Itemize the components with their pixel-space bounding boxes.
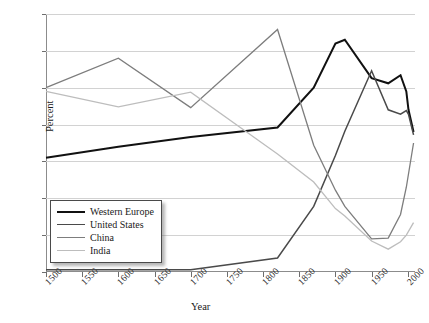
legend-item: United States <box>57 218 155 231</box>
legend-label: Western Europe <box>90 205 154 218</box>
legend-line-swatch <box>57 250 85 251</box>
legend-line-swatch <box>57 224 85 226</box>
legend-line-swatch <box>57 237 85 238</box>
x-axis-title: Year <box>191 301 210 312</box>
gdp-share-line-chart: 05101520253035 1500155016001650170017501… <box>0 0 429 323</box>
legend-label: United States <box>90 218 144 231</box>
legend-label: China <box>90 231 114 244</box>
y-axis-title: Percent <box>44 101 55 133</box>
legend-item: Western Europe <box>57 205 155 218</box>
legend-item: India <box>57 244 155 257</box>
legend: Western EuropeUnited StatesChinaIndia <box>50 200 162 263</box>
legend-label: India <box>90 244 111 257</box>
legend-line-swatch <box>57 211 85 213</box>
legend-item: China <box>57 231 155 244</box>
